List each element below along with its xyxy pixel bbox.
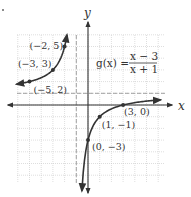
equation-numerator: x − 3 [130, 50, 158, 62]
x-axis-label: x [178, 99, 185, 113]
data-point [51, 68, 55, 72]
data-point [63, 45, 67, 49]
equation-denominator: x + 1 [130, 63, 158, 75]
point-label: (3, 0) [124, 106, 150, 117]
function-graph: (−2, 5)(−3, 3)(−5, 2)(3, 0)(1, −1)(0, −3… [0, 0, 191, 197]
bullet-dot [2, 9, 4, 11]
equation: g(x) = x − 3 x + 1 [96, 50, 158, 75]
point-label: (−2, 5) [30, 40, 64, 51]
data-point [28, 80, 32, 84]
point-label: (−3, 3) [18, 58, 52, 69]
point-label: (1, −1) [102, 119, 136, 130]
point-label: (−5, 2) [34, 84, 68, 95]
data-point [86, 138, 90, 142]
point-label: (0, −3) [92, 141, 126, 152]
y-axis-label: y [83, 6, 91, 20]
equation-lhs: g(x) = [96, 57, 129, 69]
